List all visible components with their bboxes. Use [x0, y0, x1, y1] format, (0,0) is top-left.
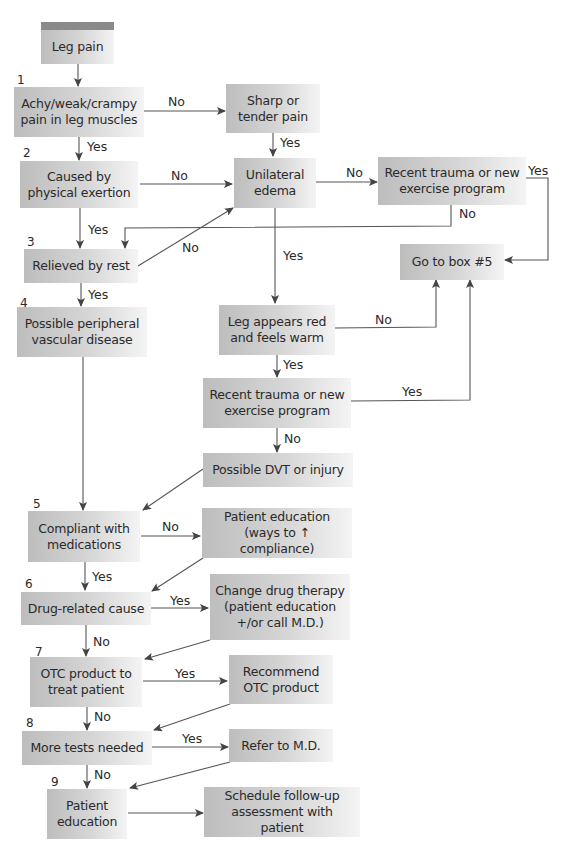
edge-label-relieved-yes: Yes	[88, 287, 108, 302]
box-go-to-5: Go to box #5	[400, 244, 504, 280]
edge-label-trauma-top-no: No	[459, 206, 476, 221]
box-relieved-by-rest: Relieved by rest	[24, 249, 138, 283]
step-number-8: 8	[26, 716, 34, 730]
edge-label-otc-no: No	[94, 709, 111, 724]
edge-label-compliant-no: No	[162, 519, 179, 534]
step-number-2: 2	[23, 146, 31, 160]
edge-label-drug-yes: Yes	[170, 593, 190, 608]
edge-label-trauma-mid-yes: Yes	[402, 384, 422, 399]
step-number-3: 3	[27, 235, 35, 249]
edge-label-relieved-no: No	[182, 240, 199, 255]
edge-label-drug-no: No	[93, 634, 110, 649]
box-patient-education: Patient education	[47, 789, 127, 839]
box-follow-up: Schedule follow-up assessment with patie…	[204, 787, 360, 837]
edge-label-unilateral-no: No	[346, 165, 363, 180]
box-recommend-otc: Recommend OTC product	[229, 655, 333, 704]
edge-label-tests-yes: Yes	[182, 731, 202, 746]
box-physical-exertion: Caused by physical exertion	[20, 161, 138, 208]
edge-label-otc-yes: Yes	[175, 666, 195, 681]
box-more-tests: More tests needed	[22, 731, 152, 765]
box-leg-pain: Leg pain	[41, 22, 114, 64]
edge-label-exertion-yes: Yes	[88, 222, 108, 237]
edge-label-exertion-no: No	[171, 168, 188, 183]
edge-label-red-yes: Yes	[283, 357, 303, 372]
step-number-6: 6	[25, 577, 33, 591]
edge-label-trauma-mid-no: No	[284, 431, 301, 446]
edge-label-red-no: No	[375, 312, 392, 327]
edge-label-tests-no: No	[94, 767, 111, 782]
box-sharp-pain: Sharp or tender pain	[226, 84, 320, 133]
box-refer-md: Refer to M.D.	[229, 729, 333, 762]
box-possible-dvt: Possible DVT or injury	[203, 453, 353, 487]
box-recent-trauma-top: Recent trauma or new exercise program	[378, 157, 526, 205]
box-change-drug: Change drug therapy (patient education +…	[210, 574, 350, 640]
box-patient-ed-compliance: Patient education (ways to ↑ compliance)	[202, 508, 352, 558]
box-pvd: Possible peripheral vascular disease	[17, 307, 147, 357]
step-number-9: 9	[51, 775, 59, 789]
box-drug-related: Drug-related cause	[21, 592, 151, 625]
edge-label-trauma-top-yes: Yes	[528, 163, 548, 178]
edge-label-unilateral-yes: Yes	[283, 248, 303, 263]
edge-label-compliant-yes: Yes	[92, 569, 112, 584]
step-number-1: 1	[17, 73, 25, 87]
step-number-5: 5	[33, 497, 41, 511]
box-red-warm: Leg appears red and feels warm	[219, 305, 335, 355]
box-compliant: Compliant with medications	[28, 511, 140, 562]
box-achy-pain: Achy/weak/crampy pain in leg muscles	[14, 87, 144, 137]
edge-label-achy-no: No	[168, 94, 185, 109]
edge-label-achy-yes: Yes	[87, 139, 107, 154]
box-unilateral-edema: Unilateral edema	[234, 158, 316, 208]
box-otc-product: OTC product to treat patient	[30, 657, 142, 707]
edge-label-sharp-yes: Yes	[280, 135, 300, 150]
box-recent-trauma-mid: Recent trauma or new exercise program	[203, 378, 351, 428]
